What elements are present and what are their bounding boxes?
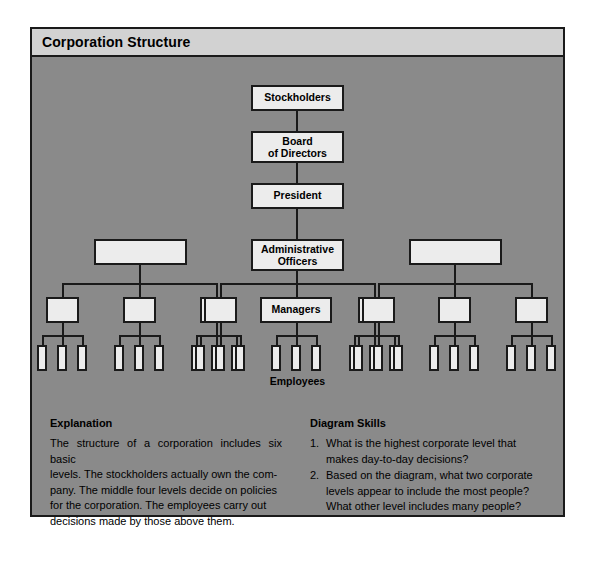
emp-group-2-down	[139, 323, 141, 335]
employee-box-4	[114, 345, 124, 371]
connector-admin-left-down	[139, 265, 141, 283]
node-board-label-line1: Board	[282, 135, 312, 147]
emp-group-8-stub-2	[454, 335, 456, 345]
connector-left-mgr1-stub	[62, 283, 64, 297]
emp-group-1-stub-2	[62, 335, 64, 345]
connector-center-mgr1-stub	[220, 283, 222, 297]
node-president: President	[251, 183, 344, 209]
employee-box-13	[271, 345, 281, 371]
connector-right-mgr1-stub	[378, 283, 380, 297]
skills-question-1-line-2: makes day-to-day decisions?	[326, 452, 550, 468]
emp-group-1-stub-1	[42, 335, 44, 345]
employee-box-26	[526, 345, 536, 371]
emp-group-6-stub-1	[354, 335, 356, 345]
panel-title-bar: Corporation Structure	[32, 29, 563, 57]
employee-box-15	[311, 345, 321, 371]
node-board-label-line2: of Directors	[268, 147, 327, 159]
node-stockholders-label: Stockholders	[264, 92, 331, 104]
employee-box-3	[77, 345, 87, 371]
skills-question-2-line-1: Based on the diagram, what two corporate	[326, 469, 533, 481]
employee-box-21	[393, 345, 403, 371]
connector-board-to-president	[296, 163, 298, 183]
admin-officer-box-left	[94, 239, 187, 265]
corporation-structure-panel: Corporation Structure Stockholders Board…	[30, 27, 565, 517]
connector-admin-center-down	[296, 271, 298, 283]
explanation-line-5: decisions made by those above them.	[50, 514, 282, 530]
emp-group-9-down	[531, 323, 533, 335]
employee-box-14	[291, 345, 301, 371]
emp-group-3-stub-1	[196, 335, 198, 345]
connector-admin-right-down	[454, 265, 456, 283]
emp-group-8-stub-3	[474, 335, 476, 345]
emp-group-8-stub-1	[434, 335, 436, 345]
employees-label: Employees	[32, 375, 563, 387]
employee-box-2	[57, 345, 67, 371]
emp-group-6-down	[374, 323, 376, 335]
employee-box-22	[429, 345, 439, 371]
emp-group-1-stub-3	[82, 335, 84, 345]
explanation-line-1: The structure of a corporation includes …	[50, 436, 282, 467]
skills-question-1-line-1: What is the highest corporate level that	[326, 437, 516, 449]
emp-group-8-down	[454, 323, 456, 335]
emp-group-5-stub-3	[316, 335, 318, 345]
emp-group-3-down	[216, 323, 218, 335]
emp-group-7-stub-1	[358, 335, 360, 345]
connector-right-mgr2-stub	[454, 283, 456, 297]
node-admin-label-line1: Administrative	[261, 243, 334, 255]
skills-question-2-line-3: What other level includes many people?	[326, 499, 550, 515]
node-president-label: President	[274, 190, 322, 202]
manager-box-2	[123, 297, 156, 323]
emp-group-2-stub-1	[119, 335, 121, 345]
manager-box-7	[362, 297, 395, 323]
connector-center-mgr2-stub	[296, 283, 298, 297]
emp-group-4-stub-1	[200, 335, 202, 345]
manager-box-5: Managers	[260, 297, 332, 323]
emp-group-2-stub-2	[139, 335, 141, 345]
node-managers-label: Managers	[271, 304, 320, 316]
connector-president-to-admin	[296, 209, 298, 239]
emp-group-7-down	[378, 323, 380, 335]
emp-group-4-stub-3	[240, 335, 242, 345]
employee-box-12	[235, 345, 245, 371]
emp-group-9-stub-2	[531, 335, 533, 345]
connector-right-mgr3-stub	[531, 283, 533, 297]
emp-group-5-down	[296, 323, 298, 335]
manager-box-1	[46, 297, 79, 323]
employee-box-6	[154, 345, 164, 371]
explanation-heading: Explanation	[50, 417, 282, 429]
employee-box-11	[215, 345, 225, 371]
connector-center-mgr3-stub	[374, 283, 376, 297]
emp-group-1-down	[62, 323, 64, 335]
manager-box-8	[438, 297, 471, 323]
manager-box-4	[204, 297, 237, 323]
employee-box-5	[134, 345, 144, 371]
skills-question-1-number: 1.	[310, 436, 319, 452]
explanation-section: Explanation The structure of a corporati…	[50, 417, 282, 530]
diagram-body: Stockholders Board of Directors Presiden…	[32, 57, 563, 515]
employee-box-23	[449, 345, 459, 371]
employee-box-19	[353, 345, 363, 371]
skills-question-2-line-2: levels appear to include the most people…	[326, 484, 550, 500]
emp-group-4-stub-2	[220, 335, 222, 345]
employee-box-27	[546, 345, 556, 371]
emp-group-5-stub-2	[296, 335, 298, 345]
skills-question-2-number: 2.	[310, 468, 319, 484]
emp-group-4-down	[220, 323, 222, 335]
node-board-of-directors: Board of Directors	[251, 131, 344, 163]
diagram-skills-section: Diagram Skills 1. What is the highest co…	[310, 417, 550, 516]
diagram-skills-list: 1. What is the highest corporate level t…	[310, 436, 550, 515]
connector-left-mgr2-stub	[139, 283, 141, 297]
diagram-skills-heading: Diagram Skills	[310, 417, 550, 429]
employee-box-10	[195, 345, 205, 371]
connector-left-mgr3-stub	[216, 283, 218, 297]
employee-box-24	[469, 345, 479, 371]
node-stockholders: Stockholders	[251, 85, 344, 111]
emp-group-7-stub-3	[398, 335, 400, 345]
emp-group-7-stub-2	[378, 335, 380, 345]
manager-box-9	[515, 297, 548, 323]
employee-box-1	[37, 345, 47, 371]
admin-officer-box-right	[409, 239, 502, 265]
employee-box-20	[373, 345, 383, 371]
skills-question-1: 1. What is the highest corporate level t…	[310, 436, 550, 467]
emp-group-9-stub-3	[551, 335, 553, 345]
